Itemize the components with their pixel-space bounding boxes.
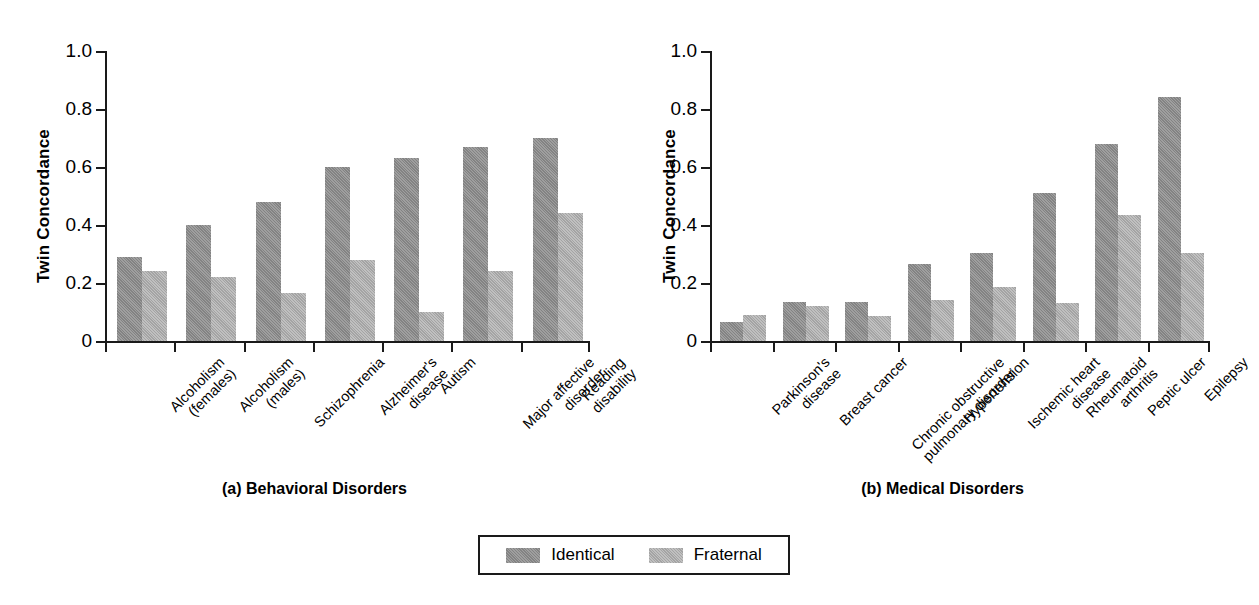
bar-fraternal-1 [806, 306, 829, 341]
y-axis-tick-label: 0.6 [66, 156, 92, 178]
y-axis-tick-label: 0.6 [671, 156, 697, 178]
y-axis-tick-label: 0.8 [66, 98, 92, 120]
y-axis-tick-label: 0 [81, 330, 92, 352]
x-axis-tick [244, 341, 246, 352]
bar-fraternal-6 [1118, 215, 1141, 341]
x-axis-tick [1208, 341, 1210, 352]
x-axis-tick [382, 341, 384, 352]
bar-identical-0 [117, 257, 142, 341]
bar-identical-3 [908, 264, 931, 341]
legend-label: Identical [551, 545, 614, 565]
y-axis-tick [701, 167, 710, 169]
legend-item-fraternal: Fraternal [649, 545, 762, 565]
bar-identical-5 [1033, 193, 1056, 341]
bar-identical-6 [533, 138, 558, 341]
x-axis-tick [1148, 341, 1150, 352]
bar-identical-3 [325, 167, 350, 341]
x-axis-tick [1023, 341, 1025, 352]
y-axis-tick [701, 225, 710, 227]
bar-fraternal-0 [743, 315, 766, 341]
chart-panel-medical-disorders: Twin Concordance 00.20.40.60.81.0 Parkin… [620, 0, 1249, 520]
x-axis-label: Breast cancer [836, 354, 911, 429]
bar-fraternal-5 [488, 271, 513, 341]
y-axis-tick [701, 51, 710, 53]
bar-identical-1 [186, 225, 211, 341]
bar-identical-4 [970, 253, 993, 341]
legend-item-identical: Identical [506, 545, 614, 565]
y-axis-tick-label: 0.8 [671, 98, 697, 120]
y-axis-tick [701, 109, 710, 111]
x-axis-label: Peptic ulcer [1144, 354, 1209, 419]
y-axis-tick-label: 1.0 [66, 40, 92, 62]
legend-swatch-identical [506, 548, 540, 563]
y-axis-tick-label: 0.4 [66, 214, 92, 236]
bar-fraternal-2 [868, 316, 891, 341]
x-axis-tick [1085, 341, 1087, 352]
x-axis-label: Alcoholism (males) [235, 354, 308, 427]
panel-caption-a: (a) Behavioral Disorders [0, 480, 629, 498]
y-axis-tick [96, 341, 105, 343]
y-axis-tick [96, 109, 105, 111]
x-axis-tick [898, 341, 900, 352]
bar-identical-0 [720, 322, 743, 341]
bar-identical-6 [1095, 144, 1118, 341]
x-axis-line [105, 341, 590, 343]
x-axis-tick [105, 341, 107, 352]
plot-area-behavioral: 00.20.40.60.81.0 [105, 51, 590, 341]
y-axis-line [710, 51, 712, 342]
bar-fraternal-0 [142, 271, 167, 341]
bar-fraternal-5 [1056, 303, 1079, 341]
bar-identical-7 [1158, 97, 1181, 341]
bar-identical-4 [394, 158, 419, 341]
y-axis-tick-label: 0.4 [671, 214, 697, 236]
chart-legend: IdenticalFraternal [478, 535, 790, 575]
bar-identical-2 [845, 302, 868, 341]
y-axis-tick-label: 0.2 [671, 272, 697, 294]
x-axis-label: Parkinson's disease [769, 354, 845, 430]
x-axis-tick [960, 341, 962, 352]
bar-fraternal-2 [281, 293, 306, 341]
x-axis-tick [313, 341, 315, 352]
bar-fraternal-3 [350, 260, 375, 341]
y-axis-title: Twin Concordance [34, 96, 54, 316]
y-axis-tick [96, 225, 105, 227]
bar-identical-1 [783, 302, 806, 341]
legend-swatch-fraternal [649, 548, 683, 563]
x-axis-tick [174, 341, 176, 352]
y-axis-tick [96, 167, 105, 169]
bar-fraternal-4 [419, 312, 444, 341]
y-axis-tick-label: 0.2 [66, 272, 92, 294]
bar-fraternal-1 [211, 277, 236, 341]
y-axis-tick-label: 0 [686, 330, 697, 352]
bar-fraternal-6 [558, 213, 583, 341]
y-axis-tick [96, 283, 105, 285]
y-axis-tick [701, 283, 710, 285]
y-axis-tick-label: 1.0 [671, 40, 697, 62]
y-axis-line [105, 51, 107, 342]
twin-concordance-figure: Twin Concordance 00.20.40.60.81.0 Alcoho… [0, 0, 1259, 605]
legend-label: Fraternal [694, 545, 762, 565]
x-axis-tick [710, 341, 712, 352]
x-axis-tick [521, 341, 523, 352]
plot-area-medical: 00.20.40.60.81.0 [710, 51, 1210, 341]
x-axis-label: Schizophrenia [311, 354, 387, 430]
panel-caption-b: (b) Medical Disorders [628, 480, 1257, 498]
bar-fraternal-7 [1181, 253, 1204, 341]
x-axis-tick [451, 341, 453, 352]
x-axis-tick [773, 341, 775, 352]
bar-fraternal-4 [993, 287, 1016, 341]
x-axis-tick [835, 341, 837, 352]
bar-identical-5 [463, 147, 488, 341]
y-axis-tick [96, 51, 105, 53]
x-axis-label: Alcoholism (females) [166, 354, 239, 427]
x-axis-tick [588, 341, 590, 352]
y-axis-tick [701, 341, 710, 343]
bar-identical-2 [256, 202, 281, 341]
chart-panel-behavioral-disorders: Twin Concordance 00.20.40.60.81.0 Alcoho… [0, 0, 629, 520]
bar-fraternal-3 [931, 300, 954, 341]
x-axis-label: Epilepsy [1201, 354, 1251, 404]
